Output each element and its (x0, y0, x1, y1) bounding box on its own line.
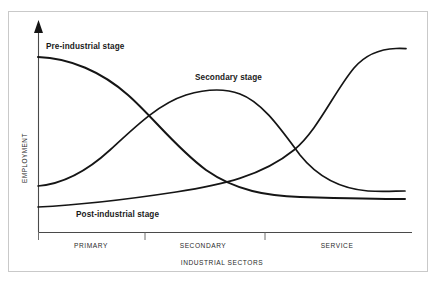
y-axis-title: EMPLOYMENT (21, 133, 28, 183)
x-axis-title: INDUSTRIAL SECTORS (181, 259, 263, 266)
curve-secondary (38, 90, 405, 191)
x-axis-category-service: SERVICE (321, 242, 354, 249)
label-pre-industrial-stage: Pre-industrial stage (46, 42, 125, 51)
label-secondary-stage: Secondary stage (195, 73, 262, 82)
x-axis-category-primary: PRIMARY (74, 242, 108, 249)
label-post-industrial-stage: Post-industrial stage (76, 210, 159, 219)
chart-figure: Pre-industrial stage Secondary stage Pos… (0, 0, 438, 282)
chart-svg: Pre-industrial stage Secondary stage Pos… (0, 0, 438, 282)
y-axis-arrow-icon (34, 20, 43, 33)
x-axis-category-secondary: SECONDARY (180, 242, 227, 249)
